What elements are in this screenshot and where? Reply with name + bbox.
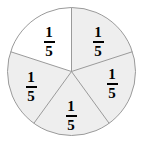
fraction-circle-figure: 1515151515 <box>0 0 143 145</box>
fraction-numerator: 1 <box>66 99 77 115</box>
fraction-numerator: 1 <box>93 25 104 41</box>
sector-label-slice-right: 15 <box>99 67 125 101</box>
fraction-denominator: 5 <box>26 88 37 104</box>
sector-label-slice-top-right: 15 <box>85 25 111 59</box>
fraction-denominator: 5 <box>93 43 104 59</box>
fraction-one-fifth: 15 <box>93 25 104 59</box>
fraction-one-fifth: 15 <box>44 25 55 59</box>
fraction-numerator: 1 <box>26 70 37 86</box>
fraction-denominator: 5 <box>44 43 55 59</box>
sector-label-slice-bottom-left: 15 <box>18 70 44 104</box>
fraction-numerator: 1 <box>107 67 118 83</box>
sector-label-slice-bottom: 15 <box>58 99 84 133</box>
fraction-one-fifth: 15 <box>26 70 37 104</box>
fraction-denominator: 5 <box>107 85 118 101</box>
sector-label-slice-top-left: 15 <box>36 25 62 59</box>
fraction-denominator: 5 <box>66 117 77 133</box>
fraction-numerator: 1 <box>44 25 55 41</box>
fraction-one-fifth: 15 <box>66 99 77 133</box>
fraction-one-fifth: 15 <box>107 67 118 101</box>
